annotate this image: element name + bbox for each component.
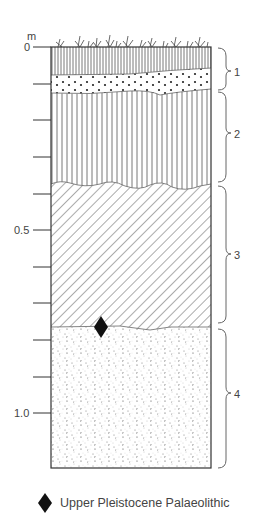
layer-label-2: 2 [234,128,240,140]
stratigraphic-section-diagram: m 0 0.5 1.0 [0,0,258,524]
layer-label-1: 1 [234,66,240,78]
legend: Upper Pleistocene Palaeolithic [38,493,230,513]
legend-text: Upper Pleistocene Palaeolithic [60,496,230,510]
layer-label-4: 4 [234,388,240,400]
grass-icon [56,35,208,47]
tick-label-1-0: 1.0 [14,407,29,419]
tick-label-0-5: 0.5 [14,224,29,236]
depth-ticks [33,47,51,413]
legend-diamond-icon [38,493,52,513]
layer-braces [218,48,231,468]
layer-3-fill [51,182,211,330]
layer-4-fill [51,326,211,468]
layer-label-3: 3 [234,249,240,261]
layer-2-fill [51,89,211,189]
tick-label-0: 0 [24,41,30,53]
